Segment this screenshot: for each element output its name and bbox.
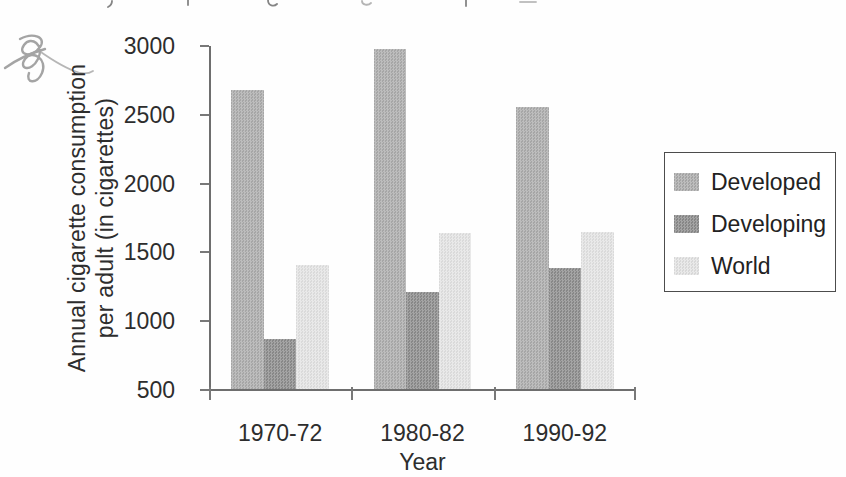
bar-developed-1970-72 (231, 90, 264, 390)
bar-world-1970-72 (296, 265, 329, 390)
x-tick-mark-2 (494, 387, 496, 400)
cropped-text-fragments (100, 0, 560, 10)
bar-developing-1970-72 (264, 339, 297, 390)
legend-item-world: World (674, 254, 827, 278)
y-tick-mark-1500 (200, 251, 209, 253)
plot-area (209, 46, 636, 390)
y-tick-mark-1000 (200, 320, 209, 322)
y-tick-mark-3000 (200, 45, 209, 47)
y-tick-label-1000: 1000 (97, 308, 175, 334)
legend-label-developed: Developed (711, 169, 821, 196)
y-tick-label-3000: 3000 (97, 33, 175, 59)
y-tick-label-2500: 2500 (97, 102, 175, 128)
legend-box: DevelopedDevelopingWorld (664, 152, 836, 292)
y-tick-label-500: 500 (97, 377, 175, 403)
x-axis-tick-labels: 1970-721980-821990-92 (209, 419, 636, 447)
y-axis-line (209, 46, 211, 390)
x-tick-label-1980-82: 1980-82 (351, 419, 493, 447)
plot-wrap: 50010001500200025003000 (209, 46, 636, 390)
x-tick-label-1970-72: 1970-72 (209, 419, 351, 447)
y-axis-title-line2: per adult (in cigarettes) (91, 38, 119, 398)
scanned-chart-page: Annual cigarette consumption per adult (… (0, 0, 846, 477)
y-axis-title: Annual cigarette consumption per adult (… (63, 38, 123, 398)
legend-label-world: World (711, 253, 771, 280)
bar-developing-1990-92 (549, 268, 582, 390)
y-tick-mark-500 (200, 389, 209, 391)
x-axis-line (209, 389, 636, 391)
bar-developing-1980-82 (406, 292, 439, 390)
legend-swatch-developed (674, 173, 699, 191)
bar-world-1990-92 (581, 232, 614, 390)
legend-item-developed: Developed (674, 170, 827, 194)
y-axis-title-line1: Annual cigarette consumption (63, 38, 91, 398)
x-tick-mark-1 (351, 387, 353, 400)
legend-swatch-world (674, 257, 699, 275)
y-tick-mark-2000 (200, 183, 209, 185)
y-tick-label-1500: 1500 (97, 239, 175, 265)
legend-swatch-developing (674, 215, 699, 233)
bar-developed-1990-92 (516, 107, 549, 390)
x-axis-title: Year (209, 449, 636, 476)
x-tick-label-1990-92: 1990-92 (494, 419, 636, 447)
y-tick-label-2000: 2000 (97, 171, 175, 197)
y-tick-mark-2500 (200, 114, 209, 116)
x-tick-mark-3 (634, 387, 636, 400)
legend-label-developing: Developing (711, 211, 826, 238)
bar-developed-1980-82 (374, 49, 407, 390)
bar-world-1980-82 (439, 233, 472, 390)
x-tick-mark-0 (209, 387, 211, 400)
legend-item-developing: Developing (674, 212, 827, 236)
